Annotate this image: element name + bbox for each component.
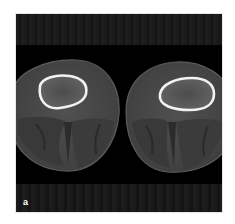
panel-label: a	[23, 198, 28, 207]
right-leg-section	[126, 62, 223, 172]
ct-cross-sections	[16, 14, 223, 213]
ct-scan-figure: a	[15, 13, 223, 213]
left-leg-section	[16, 60, 119, 171]
